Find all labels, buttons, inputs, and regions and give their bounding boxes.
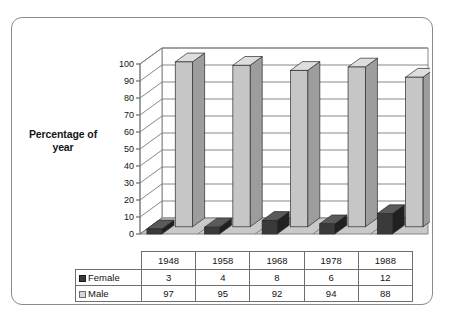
- table-row-female: Female 3 4 8 6 12: [76, 270, 413, 286]
- chart-screenshot: Percentage of year 010203040506070809010…: [0, 0, 450, 325]
- y-axis-title-line2: year: [18, 141, 108, 154]
- year-header-3: 1978: [304, 252, 358, 270]
- svg-text:0: 0: [129, 229, 134, 239]
- data-table: 1948 1958 1968 1978 1988 Female 3 4 8 6 …: [75, 251, 413, 302]
- plot-area: 0102030405060708090100: [112, 36, 430, 248]
- svg-text:90: 90: [124, 76, 134, 86]
- table-corner: [76, 252, 142, 270]
- table-row-years: 1948 1958 1968 1978 1988: [76, 252, 413, 270]
- y-axis-title: Percentage of year: [18, 128, 108, 154]
- plot-svg: 0102030405060708090100: [112, 36, 430, 248]
- y-axis-title-line1: Percentage of: [18, 128, 108, 141]
- female-value-1968: 8: [250, 270, 304, 286]
- legend-female-label: Female: [88, 272, 120, 283]
- year-header-4: 1988: [358, 252, 412, 270]
- year-header-2: 1968: [250, 252, 304, 270]
- male-value-1958: 95: [196, 286, 250, 302]
- table-row-male: Male 97 95 92 94 88: [76, 286, 413, 302]
- svg-text:100: 100: [119, 59, 134, 69]
- female-value-1978: 6: [304, 270, 358, 286]
- svg-text:70: 70: [124, 110, 134, 120]
- male-value-1968: 92: [250, 286, 304, 302]
- light-swatch-icon: [79, 291, 86, 298]
- svg-text:40: 40: [124, 161, 134, 171]
- svg-text:50: 50: [124, 144, 134, 154]
- legend-male-label: Male: [88, 288, 109, 299]
- female-value-1958: 4: [196, 270, 250, 286]
- female-value-1948: 3: [142, 270, 196, 286]
- legend-male: Male: [76, 286, 142, 302]
- svg-text:20: 20: [124, 195, 134, 205]
- svg-text:30: 30: [124, 178, 134, 188]
- svg-text:60: 60: [124, 127, 134, 137]
- male-value-1988: 88: [358, 286, 412, 302]
- male-value-1948: 97: [142, 286, 196, 302]
- year-header-1: 1958: [196, 252, 250, 270]
- year-header-0: 1948: [142, 252, 196, 270]
- male-value-1978: 94: [304, 286, 358, 302]
- dark-swatch-icon: [79, 275, 86, 282]
- svg-text:80: 80: [124, 93, 134, 103]
- female-value-1988: 12: [358, 270, 412, 286]
- svg-text:10: 10: [124, 212, 134, 222]
- legend-female: Female: [76, 270, 142, 286]
